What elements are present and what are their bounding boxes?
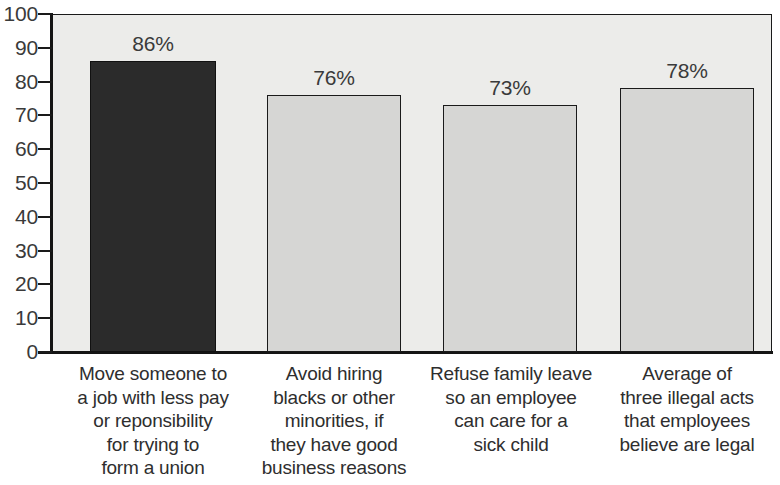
y-axis-tick-label: 90 (2, 37, 38, 58)
y-axis-tick-label: 50 (2, 172, 38, 193)
category-label-line: they have good (250, 433, 418, 457)
y-axis-tick-label: 30 (2, 240, 38, 261)
category-label-line: for trying to (62, 433, 244, 457)
category-label-line: blacks or other (250, 386, 418, 410)
chart-title-remnant (0, 0, 780, 11)
y-axis-tick-label: 100 (2, 3, 38, 24)
y-axis-tick (38, 317, 52, 319)
category-label: Average ofthree illegal actsthat employe… (596, 362, 778, 456)
category-label-line: three illegal acts (596, 386, 778, 410)
bar-value-label: 73% (443, 77, 577, 98)
category-label-line: Move someone to (62, 362, 244, 386)
bar (443, 105, 577, 352)
category-label-line: so an employee (420, 386, 602, 410)
bar-value-label: 86% (90, 33, 216, 54)
category-label-line: or reponsibility (62, 409, 244, 433)
category-label-line: can care for a (420, 409, 602, 433)
y-axis-tick (38, 283, 52, 285)
y-axis-tick (38, 182, 52, 184)
category-label-line: a job with less pay (62, 386, 244, 410)
category-label-line: business reasons (250, 456, 418, 480)
category-label-line: form a union (62, 456, 244, 480)
y-axis-tick-label: 0 (2, 341, 38, 362)
y-axis-tick (38, 351, 52, 353)
category-label: Move someone toa job with less payor rep… (62, 362, 244, 480)
y-axis-tick-label: 20 (2, 273, 38, 294)
y-axis-tick (38, 216, 52, 218)
category-label-line: Avoid hiring (250, 362, 418, 386)
y-axis-tick (38, 47, 52, 49)
category-label-line: sick child (420, 433, 602, 457)
y-axis-labels: 1009080706050403020100 (0, 0, 38, 485)
y-axis-tick (38, 114, 52, 116)
y-axis-tick-label: 70 (2, 104, 38, 125)
category-label-line: Refuse family leave (420, 362, 602, 386)
category-label-line: believe are legal (596, 433, 778, 457)
y-axis-tick (38, 13, 52, 15)
y-axis-tick-label: 80 (2, 71, 38, 92)
bar (267, 95, 401, 352)
y-axis-tick (38, 81, 52, 83)
y-axis-tick-label: 10 (2, 307, 38, 328)
bar-value-label: 78% (620, 60, 754, 81)
bar (620, 88, 754, 352)
bar (90, 61, 216, 352)
bar-chart: 1009080706050403020100 86%76%73%78% Move… (0, 0, 780, 485)
category-label-line: Average of (596, 362, 778, 386)
y-axis-tick-label: 60 (2, 138, 38, 159)
y-axis-tick-label: 40 (2, 206, 38, 227)
category-label-line: that employees (596, 409, 778, 433)
category-label: Avoid hiringblacks or otherminorities, i… (250, 362, 418, 480)
category-label-line: minorities, if (250, 409, 418, 433)
y-axis-tick (38, 148, 52, 150)
category-label: Refuse family leaveso an employeecan car… (420, 362, 602, 456)
bar-value-label: 76% (267, 67, 401, 88)
y-axis-tick (38, 250, 52, 252)
